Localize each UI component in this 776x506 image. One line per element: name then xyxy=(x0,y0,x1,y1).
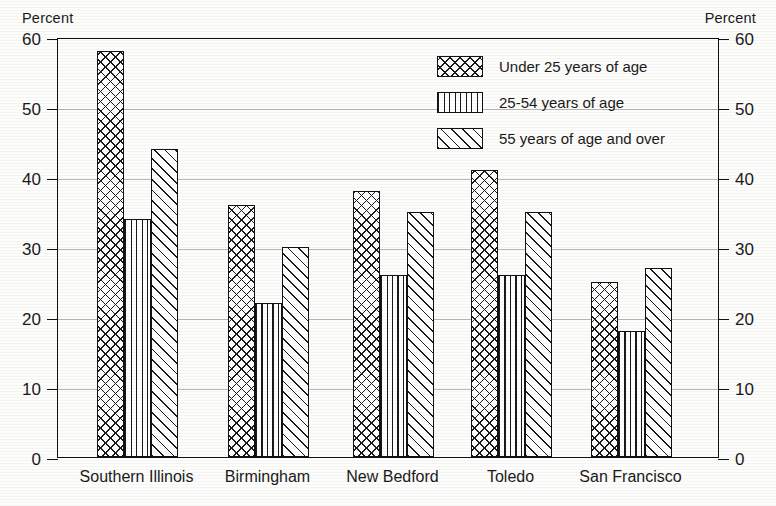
y-tick-label-left: 30 xyxy=(22,241,41,258)
axis-tick-left xyxy=(47,319,58,320)
bar xyxy=(282,247,309,457)
axis-tick-right xyxy=(718,319,729,320)
legend-swatch-diagonal-lines-icon xyxy=(437,128,483,149)
category-label: San Francisco xyxy=(579,468,681,486)
y-tick-label-right: 10 xyxy=(735,381,754,398)
right-axis-caption: Percent xyxy=(705,10,756,26)
y-tick-label-right: 60 xyxy=(735,31,754,48)
y-tick-label-right: 20 xyxy=(735,311,754,328)
bar xyxy=(591,282,618,457)
legend-label: Under 25 years of age xyxy=(499,58,647,75)
legend-item: 55 years of age and over xyxy=(437,124,707,152)
left-axis-caption: Percent xyxy=(22,10,73,26)
y-tick-label-right: 30 xyxy=(735,241,754,258)
bar xyxy=(498,275,525,457)
bar xyxy=(645,268,672,457)
chart-page: Percent Percent 001010202030304040505060… xyxy=(0,0,776,506)
bar xyxy=(228,205,255,457)
axis-tick-left xyxy=(47,249,58,250)
y-tick-label-left: 0 xyxy=(32,451,41,468)
axis-tick-left xyxy=(47,179,58,180)
axis-tick-left xyxy=(47,389,58,390)
bar xyxy=(380,275,407,457)
bar xyxy=(471,170,498,457)
legend-swatch-cross-hatch-icon xyxy=(437,56,483,77)
legend-label: 55 years of age and over xyxy=(499,130,665,147)
axis-tick-left xyxy=(47,109,58,110)
bar xyxy=(618,331,645,457)
legend-item: Under 25 years of age xyxy=(437,52,707,80)
axis-tick-right xyxy=(718,109,729,110)
bar xyxy=(353,191,380,457)
bar xyxy=(97,51,124,457)
axis-tick-left xyxy=(47,459,58,460)
y-tick-label-left: 10 xyxy=(22,381,41,398)
y-tick-label-left: 50 xyxy=(22,101,41,118)
bar xyxy=(525,212,552,457)
y-tick-label-right: 0 xyxy=(735,451,744,468)
category-label: New Bedford xyxy=(346,468,439,486)
y-tick-label-left: 20 xyxy=(22,311,41,328)
axis-tick-right xyxy=(718,459,729,460)
y-tick-label-left: 40 xyxy=(22,171,41,188)
axis-tick-right xyxy=(718,389,729,390)
category-label: Toledo xyxy=(487,468,534,486)
axis-tick-right xyxy=(718,249,729,250)
category-label: Southern Illinois xyxy=(80,468,194,486)
legend-swatch-vertical-lines-icon xyxy=(437,92,483,113)
y-tick-label-right: 50 xyxy=(735,101,754,118)
y-tick-label-left: 60 xyxy=(22,31,41,48)
axis-tick-left xyxy=(47,39,58,40)
axis-tick-right xyxy=(718,179,729,180)
bar xyxy=(407,212,434,457)
category-label: Birmingham xyxy=(225,468,310,486)
bar xyxy=(255,303,282,457)
bar xyxy=(124,219,151,457)
bar xyxy=(151,149,178,457)
y-tick-label-right: 40 xyxy=(735,171,754,188)
chart-legend: Under 25 years of age25-54 years of age5… xyxy=(437,52,707,160)
axis-tick-right xyxy=(718,39,729,40)
legend-item: 25-54 years of age xyxy=(437,88,707,116)
legend-label: 25-54 years of age xyxy=(499,94,624,111)
